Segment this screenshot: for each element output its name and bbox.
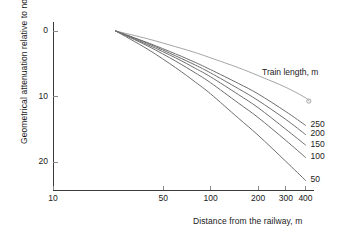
series-label-50: 50 bbox=[310, 174, 319, 184]
x-tick-label: 10 bbox=[39, 193, 67, 203]
chart-figure: Geometrical attenuation relative to nois… bbox=[0, 0, 341, 237]
series-label-150: 150 bbox=[310, 139, 324, 149]
axes bbox=[53, 22, 314, 190]
y-tick-label: 10 bbox=[26, 91, 48, 101]
x-axis-label: Distance from the railway, m bbox=[193, 216, 302, 226]
series-curve bbox=[116, 31, 306, 145]
y-axis-label: Geometrical attenuation relative to nois… bbox=[18, 0, 30, 144]
legend-title: Train length, m bbox=[262, 67, 318, 77]
series-label-200: 200 bbox=[310, 128, 324, 138]
y-tick-label: 20 bbox=[26, 156, 48, 166]
axis-ticks bbox=[53, 31, 305, 190]
y-axis-label-wrapper: Geometrical attenuation relative to nois… bbox=[18, 0, 44, 144]
x-tick-label: 50 bbox=[149, 193, 177, 203]
x-tick-label: 100 bbox=[197, 193, 225, 203]
series-curve bbox=[116, 31, 306, 125]
x-tick-label: 400 bbox=[291, 193, 319, 203]
x-tick-label: 200 bbox=[244, 193, 272, 203]
y-tick-label: 0 bbox=[26, 25, 48, 35]
series-label-100: 100 bbox=[310, 151, 324, 161]
data-curves bbox=[116, 31, 309, 180]
